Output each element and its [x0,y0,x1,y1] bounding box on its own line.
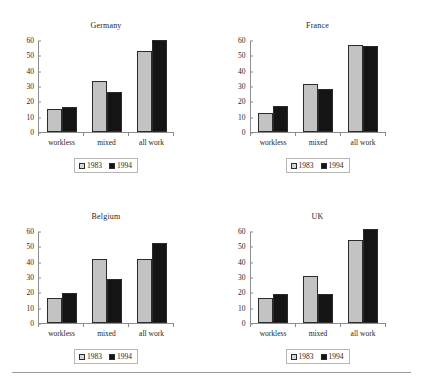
x-axis-tick-mark [38,133,39,136]
bar-all-work-1983 [348,45,363,132]
bar-mixed-1994 [318,294,333,323]
bar-workless-1994 [62,293,77,323]
x-axis-tick-mark [173,133,174,136]
plot-area-germany: 0102030405060worklessmixedall work [38,41,174,150]
y-axis-tick-label: 60 [27,228,39,236]
bar-group-mixed [92,41,122,132]
bar-mixed-1994 [107,279,122,323]
chart-panel-uk: UK0102030405060worklessmixedall work1983… [212,191,423,382]
legend-label: 1983 [87,352,102,361]
x-axis-label-mixed: mixed [97,138,116,148]
x-axis-tick-mark [250,324,251,327]
legend-swatch-black-square-icon [321,354,327,360]
y-axis-tick-label: 50 [238,243,250,251]
bar-all-work-1994 [152,40,167,132]
x-axis-tick-mark [173,324,174,327]
x-axis-labels: worklessmixedall work [38,138,174,150]
legend-germany: 19831994 [74,158,138,173]
bar-group-all-work [348,232,378,323]
x-axis-labels: worklessmixedall work [250,329,386,341]
y-axis-tick-label: 40 [27,259,39,267]
y-axis-tick-label: 0 [30,129,38,137]
y-axis-tick-label: 40 [238,68,250,76]
legend-item-1994: 1994 [321,161,344,170]
x-axis-label-all-work: all work [139,329,164,339]
bar-group-workless [258,41,288,132]
y-axis-tick-label: 30 [238,83,250,91]
legend-item-1983: 1983 [79,161,102,170]
y-axis-tick-label: 40 [238,259,250,267]
bars-layer [39,232,174,323]
bar-all-work-1983 [348,240,363,323]
bar-mixed-1994 [107,92,122,132]
chart-title-germany: Germany [0,0,212,32]
x-axis-label-all-work: all work [139,138,164,148]
legend-swatch-black-square-icon [109,163,115,169]
bar-group-all-work [348,41,378,132]
y-axis-tick-label: 20 [238,98,250,106]
bar-mixed-1983 [92,259,107,323]
bar-group-all-work [137,232,167,323]
x-axis-labels: worklessmixedall work [250,138,386,150]
bar-all-work-1994 [152,243,167,323]
chart-title-uk: UK [212,191,423,223]
x-axis-line [38,323,174,324]
legend-holder-france: 19831994 [212,150,423,173]
x-axis-label-workless: workless [260,138,287,148]
x-axis-label-workless: workless [48,329,75,339]
plot-area-france: 0102030405060worklessmixedall work [250,41,386,150]
y-axis-tick-label: 40 [27,68,39,76]
bars-layer [251,232,386,323]
plot-area-uk: 0102030405060worklessmixedall work [250,232,386,341]
legend-swatch-light-square-icon [291,163,297,169]
legend-item-1994: 1994 [109,352,132,361]
chart-title-france: France [212,0,423,32]
legend-label: 1983 [87,161,102,170]
x-axis-label-all-work: all work [351,138,376,148]
legend-holder-uk: 19831994 [212,341,423,364]
bar-all-work-1983 [137,259,152,323]
x-axis-tick-mark [83,133,84,136]
plot-belgium: 0102030405060 [38,232,174,324]
bar-all-work-1994 [363,46,378,132]
y-axis-tick-label: 10 [238,114,250,122]
legend-item-1983: 1983 [79,352,102,361]
legend-swatch-black-square-icon [321,163,327,169]
x-axis-label-workless: workless [260,329,287,339]
x-axis-label-workless: workless [48,138,75,148]
bar-mixed-1983 [303,276,318,323]
bar-group-workless [258,232,288,323]
bar-all-work-1994 [363,229,378,323]
x-axis-label-mixed: mixed [97,329,116,339]
bar-workless-1983 [258,298,273,323]
bar-group-mixed [303,232,333,323]
x-axis-label-all-work: all work [351,329,376,339]
bar-group-workless [47,41,77,132]
x-axis-label-mixed: mixed [309,138,328,148]
y-axis-tick-label: 60 [238,37,250,45]
plot-area-belgium: 0102030405060worklessmixedall work [38,232,174,341]
y-axis-tick-label: 50 [238,52,250,60]
y-axis-tick-label: 30 [27,83,39,91]
legend-swatch-light-square-icon [79,354,85,360]
y-axis-tick-label: 30 [238,274,250,282]
legend-label: 1994 [329,161,344,170]
x-axis-tick-mark [128,324,129,327]
chart-grid: Germany0102030405060worklessmixedall wor… [0,0,423,382]
legend-holder-germany: 19831994 [0,150,212,173]
x-axis-tick-mark [295,133,296,136]
chart-title-belgium: Belgium [0,191,212,223]
legend-belgium: 19831994 [74,349,138,364]
bar-group-mixed [303,41,333,132]
y-axis-tick-label: 60 [27,37,39,45]
legend-label: 1983 [299,352,314,361]
bar-workless-1983 [47,109,62,132]
bar-mixed-1983 [303,84,318,132]
bar-workless-1994 [62,107,77,132]
plot-uk: 0102030405060 [250,232,386,324]
bar-mixed-1983 [92,81,107,132]
chart-panel-france: France0102030405060worklessmixedall work… [212,0,423,191]
x-axis-tick-mark [340,324,341,327]
x-axis-tick-mark [128,133,129,136]
plot-germany: 0102030405060 [38,41,174,133]
